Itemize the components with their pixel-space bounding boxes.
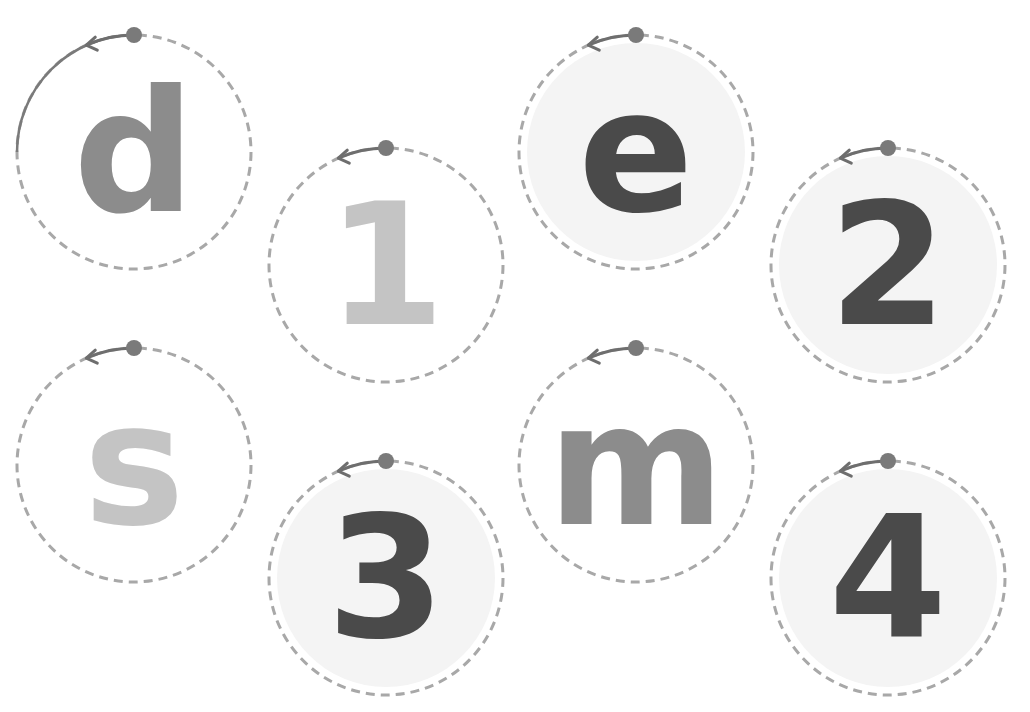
trace-card-d[interactable]: d <box>14 32 254 272</box>
glyph-letter-d: d <box>14 32 254 286</box>
glyph-letter-e: e <box>516 32 756 286</box>
trace-card-2[interactable]: 2 <box>768 145 1008 385</box>
glyph-letter-m: m <box>516 345 756 599</box>
glyph-number-2: 2 <box>768 145 1008 385</box>
trace-card-4[interactable]: 4 <box>768 458 1008 698</box>
trace-card-m[interactable]: m <box>516 345 756 585</box>
trace-card-e[interactable]: e <box>516 32 756 272</box>
glyph-number-3: 3 <box>266 458 506 698</box>
trace-card-s[interactable]: s <box>14 345 254 585</box>
glyph-number-4: 4 <box>768 458 1008 698</box>
trace-card-1[interactable]: 1 <box>266 145 506 385</box>
glyph-number-1: 1 <box>266 145 506 385</box>
glyph-letter-s: s <box>14 345 254 599</box>
trace-card-3[interactable]: 3 <box>266 458 506 698</box>
